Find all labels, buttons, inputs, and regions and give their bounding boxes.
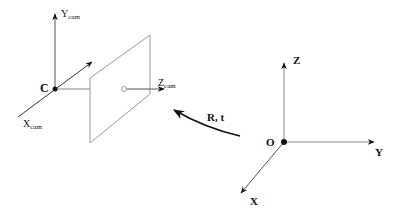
camera-x-label: Xcam — [23, 119, 42, 131]
principal-point-icon — [122, 87, 127, 92]
camera-center-point — [53, 87, 58, 92]
image-plane — [90, 35, 164, 143]
world-origin-label: O — [266, 137, 275, 148]
world-frame — [241, 63, 374, 193]
camera-frame — [18, 14, 92, 117]
world-x-axis — [241, 142, 284, 193]
camera-z-label: Zcam — [158, 78, 176, 90]
camera-y-label: Ycam — [61, 9, 80, 21]
diagram-canvas — [0, 0, 398, 217]
world-z-label: Z — [293, 55, 300, 66]
world-origin-point — [281, 139, 287, 145]
camera-center-label: C — [40, 82, 49, 94]
world-y-label: Y — [375, 147, 383, 158]
world-x-label: X — [250, 196, 258, 207]
transform-label: R, t — [207, 112, 224, 123]
